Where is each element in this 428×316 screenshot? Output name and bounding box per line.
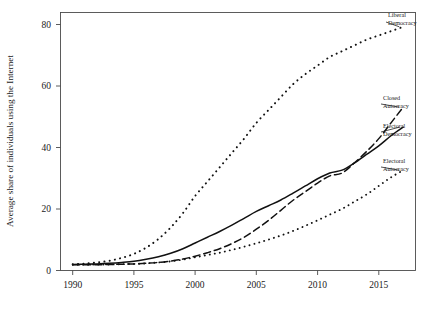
y-axis-ticks [56,25,61,271]
legend-label-electoral-autocracy-line1: Electoral [383,157,406,164]
x-axis-ticks [73,271,379,276]
line-chart: 0 20 40 60 80 1990 1995 2000 2005 2010 2… [0,0,428,316]
x-tick-label-2005: 2005 [247,280,266,290]
y-tick-label-20: 20 [42,204,52,214]
y-axis-tick-labels: 0 20 40 60 80 [42,20,52,276]
legend-label-electoral-autocracy-line2: Autocracy [383,165,410,172]
x-tick-label-2000: 2000 [186,280,205,290]
y-tick-label-0: 0 [46,266,51,276]
series-line-electoral-democracy [73,127,404,264]
y-axis-title: Average share of individuals using the I… [5,55,15,227]
series-line-electoral-autocracy [73,170,404,265]
y-tick-label-80: 80 [42,20,52,30]
legend-annotations: Liberal Democracy Closed Autocracy Elect… [383,11,417,172]
legend-item-liberal-democracy: Liberal Democracy [388,11,417,26]
legend-item-electoral-autocracy: Electoral Autocracy [383,157,410,172]
y-tick-label-40: 40 [42,143,52,153]
series-line-closed-autocracy [73,107,404,265]
x-tick-label-1990: 1990 [63,280,82,290]
legend-label-closed-autocracy-line1: Closed [383,94,401,101]
legend-item-closed-autocracy: Closed Autocracy [383,94,410,109]
x-axis-tick-labels: 1990 1995 2000 2005 2010 2015 [63,280,388,290]
y-tick-label-60: 60 [42,81,52,91]
series-line-liberal-democracy [73,27,404,264]
x-tick-label-2010: 2010 [308,280,327,290]
x-tick-label-1995: 1995 [124,280,143,290]
legend-label-electoral-democracy-line1: Electoral [383,122,406,129]
legend-label-closed-autocracy-line2: Autocracy [383,102,410,109]
legend-label-liberal-democracy-line2: Democracy [388,19,417,26]
x-tick-label-2015: 2015 [369,280,388,290]
chart-figure: 0 20 40 60 80 1990 1995 2000 2005 2010 2… [0,0,428,316]
plot-frame [61,13,416,271]
legend-label-electoral-democracy-line2: Democracy [383,130,412,137]
legend-item-electoral-democracy: Electoral Democracy [383,122,412,137]
legend-label-liberal-democracy-line1: Liberal [388,11,406,18]
series-group [73,22,404,265]
